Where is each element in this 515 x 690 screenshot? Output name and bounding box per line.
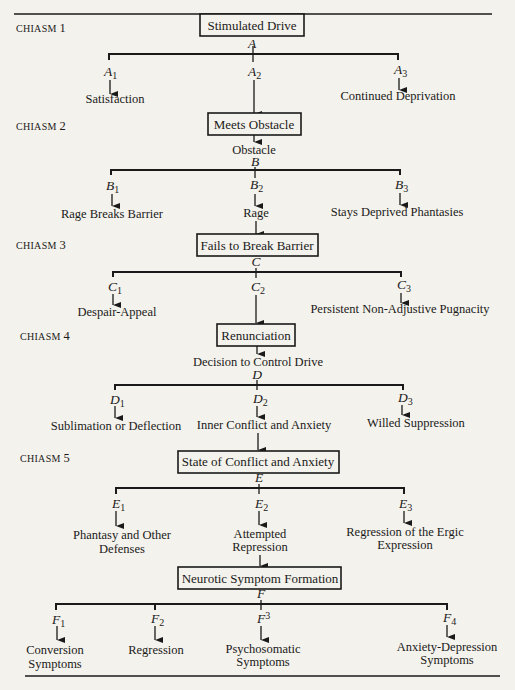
neurotic-symptom-text: Neurotic Symptom Formation <box>182 571 339 586</box>
label-D2: D2 <box>252 391 268 408</box>
symptom-formation: Neurotic Symptom Formation F F1 F2 F3 F4… <box>26 567 498 671</box>
regression-ergic-line1: Regression of the Ergic <box>346 525 464 539</box>
label-D3: D3 <box>397 390 413 407</box>
regression-ergic-line2: Expression <box>377 538 433 552</box>
label-B2: B2 <box>250 177 263 194</box>
label-B1: B1 <box>106 178 119 195</box>
chiasm-5: State of Conflict and Anxiety E E1 E2 E3… <box>73 451 464 566</box>
psychosomatic-line1: Psychosomatic <box>226 642 301 656</box>
label-B3: B3 <box>395 177 408 194</box>
label-B: B <box>251 154 259 169</box>
attempted-repression-line2: Repression <box>232 540 288 554</box>
label-D: D <box>251 367 262 382</box>
label-F2: F2 <box>150 611 164 628</box>
chiasm-1-label: CHIASM 1 <box>16 21 66 35</box>
branch-line-F <box>56 604 447 610</box>
satisfaction-text: Satisfaction <box>85 92 145 106</box>
sublimation-text: Sublimation or Deflection <box>51 419 182 433</box>
conversion-line1: Conversion <box>26 643 84 657</box>
chiasm-1: Stimulated Drive A A1 A2 A3 Satisfaction… <box>85 14 456 114</box>
stays-deprived-text: Stays Deprived Phantasies <box>331 205 464 219</box>
psychosomatic-line2: Symptoms <box>236 655 290 669</box>
chiasm-5-label: CHIASM 5 <box>20 451 70 465</box>
phantasy-text-line1: Phantasy and Other <box>73 528 172 542</box>
label-C2: C2 <box>251 279 265 296</box>
anxiety-depression-line2: Symptoms <box>420 653 474 667</box>
label-A1: A1 <box>103 64 117 81</box>
chiasm-2: Meets Obstacle Obstacle B B1 B2 B3 Rage … <box>61 113 463 234</box>
label-E1: E1 <box>111 496 125 513</box>
continued-deprivation-text: Continued Deprivation <box>341 89 457 103</box>
fails-to-break-text: Fails to Break Barrier <box>201 238 315 253</box>
label-C: C <box>251 254 261 269</box>
label-F4: F4 <box>442 610 456 627</box>
chiasm-flow-diagram: CHIASM 1 CHIASM 2 CHIASM 3 CHIASM 4 CHIA… <box>0 0 515 690</box>
renunciation-text: Renunciation <box>221 328 291 343</box>
label-F3: F3 <box>256 610 270 626</box>
chiasm-2-label: CHIASM 2 <box>16 119 66 133</box>
label-A: A <box>247 36 257 51</box>
branch-line-C <box>113 272 401 277</box>
branch-line-D <box>115 385 403 390</box>
rage-text: Rage <box>243 206 269 220</box>
chiasm-3-label: CHIASM 3 <box>16 238 66 252</box>
label-E2: E2 <box>254 496 268 513</box>
label-E: E <box>254 470 264 485</box>
chiasm-4: Renunciation Decision to Control Drive D… <box>51 324 466 450</box>
inner-conflict-text: Inner Conflict and Anxiety <box>197 418 332 432</box>
anxiety-depression-line1: Anxiety-Depression <box>397 640 498 654</box>
label-D1: D1 <box>109 392 125 409</box>
label-F: F <box>256 586 266 601</box>
phantasy-text-line2: Defenses <box>99 542 145 556</box>
label-C1: C1 <box>108 279 122 296</box>
meets-obstacle-text: Meets Obstacle <box>214 117 295 132</box>
rage-breaks-barrier-text: Rage Breaks Barrier <box>61 207 164 221</box>
label-E3: E3 <box>398 496 412 513</box>
conversion-line2: Symptoms <box>28 657 82 671</box>
label-A2: A2 <box>247 64 261 81</box>
willed-suppression-text: Willed Suppression <box>367 416 466 430</box>
label-C3: C3 <box>397 277 411 294</box>
despair-appeal-text: Despair-Appeal <box>78 305 157 319</box>
regression-text: Regression <box>128 643 184 657</box>
stimulated-drive-text: Stimulated Drive <box>207 18 296 33</box>
label-A3: A3 <box>393 62 407 79</box>
chiasm-4-label: CHIASM 4 <box>20 329 71 343</box>
persistent-pugnacity-text: Persistent Non-Adjustive Pugnacity <box>310 302 490 316</box>
branch-line-E <box>116 488 404 494</box>
label-F1: F1 <box>51 612 65 629</box>
attempted-repression-line1: Attempted <box>234 527 288 541</box>
chiasm-3: Fails to Break Barrier C C1 C2 C3 Despai… <box>78 234 491 323</box>
state-of-conflict-text: State of Conflict and Anxiety <box>182 454 335 469</box>
